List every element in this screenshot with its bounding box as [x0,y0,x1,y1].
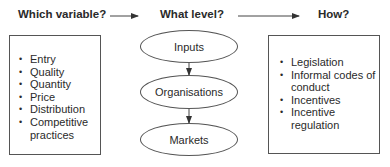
header-how: How? [318,8,349,20]
header-which-variable: Which variable? [18,8,106,20]
list-item: Quantity [18,78,100,91]
list-item: Legislation [279,56,379,69]
level-inputs: Inputs [140,30,238,63]
list-item: Incentives [279,94,379,107]
list-item: Quality [18,66,100,79]
list-item: Distribution [18,103,100,116]
methods-list: Legislation Informal codes of conduct In… [279,56,379,132]
level-markets: Markets [140,123,238,156]
level-label: Inputs [174,41,204,53]
methods-box: Legislation Informal codes of conduct In… [268,35,380,154]
list-item: Incentive regulation [279,106,361,131]
variables-box: Entry Quality Quantity Price Distributio… [9,35,101,155]
list-item: Entry [18,53,100,66]
level-organisations: Organisations [140,75,238,109]
level-label: Organisations [155,86,223,98]
header-what-level: What level? [160,8,224,20]
level-label: Markets [169,134,208,146]
list-item: Informal codes of conduct [279,69,379,94]
variables-list: Entry Quality Quantity Price Distributio… [18,53,100,141]
list-item: Price [18,91,100,104]
list-item: Competitive practices [18,116,96,141]
